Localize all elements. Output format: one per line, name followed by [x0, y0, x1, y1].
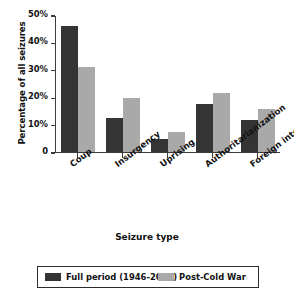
- y-axis-tick-label: 50%: [28, 9, 48, 19]
- y-axis-tick: 50%: [51, 15, 56, 16]
- bar: [78, 67, 95, 152]
- legend-swatch-post-cold-war: [158, 273, 174, 281]
- bar: [61, 26, 78, 152]
- bar: [106, 118, 123, 153]
- bar-chart-figure: Percentage of all seizures 010%20%30%40%…: [0, 0, 294, 302]
- bar-group: [196, 15, 230, 152]
- bar: [196, 104, 213, 152]
- y-axis-tick-label: 0: [42, 146, 48, 156]
- y-axis-tick-label: 20%: [28, 91, 48, 101]
- y-axis-tick-label: 40%: [28, 36, 48, 46]
- legend-label-post-cold-war: Post-Cold War: [179, 272, 246, 282]
- y-axis-tick-label: 10%: [28, 119, 48, 129]
- y-axis-tick: 0: [51, 152, 56, 153]
- y-axis-tick: 40%: [51, 43, 56, 44]
- bar-group: [61, 15, 95, 152]
- legend-swatch-full-period: [45, 273, 61, 281]
- y-axis-tick: 20%: [51, 98, 56, 99]
- bar-group: [106, 15, 140, 152]
- chart-legend: Full period (1946-2010) Post-Cold War: [37, 266, 259, 288]
- y-axis-line: [55, 16, 56, 153]
- y-axis-tick: 10%: [51, 125, 56, 126]
- x-axis-title: Seizure type: [0, 232, 294, 242]
- legend-entry-post-cold-war: Post-Cold War: [158, 267, 246, 287]
- y-axis-title: Percentage of all seizures: [17, 8, 27, 158]
- y-axis-tick: 30%: [51, 70, 56, 71]
- y-axis-tick-label: 30%: [28, 64, 48, 74]
